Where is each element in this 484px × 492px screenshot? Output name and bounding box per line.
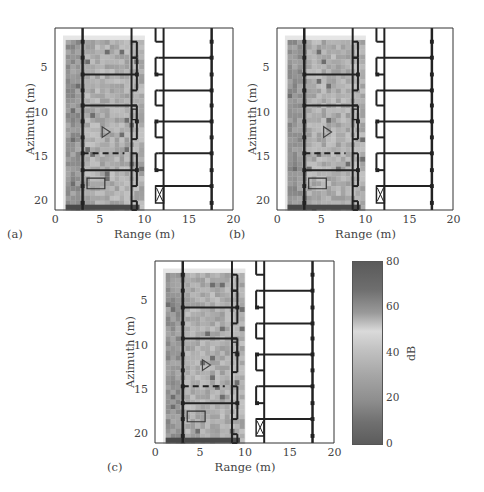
x-tick-label: 15 bbox=[283, 447, 297, 458]
colorbar-tick-0: 0 bbox=[386, 437, 393, 449]
y-tick-label: 5 bbox=[141, 295, 148, 306]
y-tick-label: 20 bbox=[134, 428, 148, 439]
colorbar-tick-60: 60 bbox=[386, 300, 399, 312]
x-axis-label: Range (m) bbox=[215, 460, 276, 474]
colorbar-tick-40: 40 bbox=[386, 346, 399, 358]
y-axis-label: Azimuth (m) bbox=[123, 312, 137, 392]
x-tick-label: 10 bbox=[238, 447, 252, 458]
x-tick-label: 5 bbox=[197, 447, 204, 458]
x-tick-label: 20 bbox=[328, 447, 342, 458]
colorbar-tick-20: 20 bbox=[386, 391, 399, 403]
colorbar bbox=[352, 261, 383, 445]
colorbar-tick-80: 80 bbox=[386, 255, 399, 267]
panel-label: (c) bbox=[107, 460, 122, 474]
colorbar-title: dB bbox=[405, 346, 418, 361]
x-tick-label: 0 bbox=[152, 447, 159, 458]
plot-area bbox=[155, 261, 334, 443]
subplot-c: 051015205101520Range (m)Azimuth (m)(c) bbox=[0, 0, 484, 492]
